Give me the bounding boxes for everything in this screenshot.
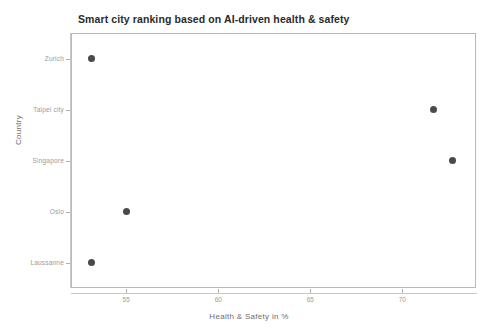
x-tick-65 (310, 289, 311, 293)
x-tick-label-55: 55 (123, 296, 130, 303)
y-tick-laussanne (66, 263, 70, 264)
y-tick-singapore (66, 161, 70, 162)
x-axis-spine (71, 293, 477, 294)
plot-area (71, 33, 476, 288)
data-point-zurich (88, 55, 95, 62)
y-tick-zurich (66, 59, 70, 60)
x-tick-60 (218, 289, 219, 293)
y-axis-title: Country (14, 115, 23, 145)
y-tick-label-taipei-city: Taipei city (0, 106, 64, 113)
x-tick-55 (126, 289, 127, 293)
y-tick-label-oslo: Oslo (0, 208, 64, 215)
chart-title: Smart city ranking based on AI-driven he… (78, 13, 350, 25)
data-point-laussanne (88, 259, 95, 266)
y-tick-label-laussanne: Laussanne (0, 259, 64, 266)
data-point-singapore (449, 157, 456, 164)
x-tick-label-60: 60 (215, 296, 222, 303)
scatter-chart-figure: Smart city ranking based on AI-driven he… (0, 0, 498, 333)
y-tick-label-zurich: Zurich (0, 55, 64, 62)
x-tick-label-65: 65 (307, 296, 314, 303)
y-tick-label-singapore: Singapore (0, 157, 64, 164)
x-tick-label-70: 70 (399, 296, 406, 303)
x-axis-title: Health & Safety in % (0, 312, 498, 321)
y-tick-oslo (66, 212, 70, 213)
data-point-oslo (123, 208, 130, 215)
x-tick-70 (402, 289, 403, 293)
y-tick-taipei-city (66, 110, 70, 111)
